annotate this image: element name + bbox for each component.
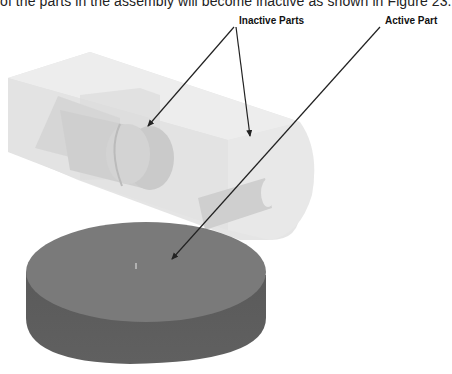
active-part-disc [26,222,266,364]
active-part-callout: Active Part [385,15,437,26]
inactive-parts-callout: Inactive Parts [239,15,304,26]
